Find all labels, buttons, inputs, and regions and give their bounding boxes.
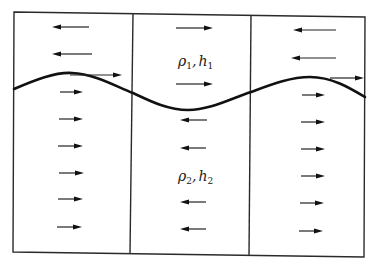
right-arrow-icon [59, 116, 83, 121]
h-symbol: h [198, 53, 207, 69]
right-arrow-icon [302, 92, 325, 97]
lower-layer-label: ρ2,h2 [177, 168, 213, 186]
right-arrow-icon [176, 25, 213, 30]
left-arrow-icon [293, 27, 336, 32]
right-arrow-icon [59, 170, 84, 175]
channel-divider-2 [249, 15, 251, 255]
channel-dividers [130, 13, 251, 255]
frame-border [13, 12, 365, 257]
h-subscript: 1 [207, 61, 213, 71]
right-arrow-icon [58, 196, 83, 201]
h-symbol: h [198, 168, 207, 184]
stratified-flow-diagram: ρ1,h1 ρ2,h2 [0, 0, 378, 268]
left-arrow-icon [52, 51, 92, 56]
right-arrow-icon [58, 143, 83, 148]
channel-divider-1 [130, 13, 133, 253]
left-arrow-icon [52, 24, 89, 29]
right-arrow-icon [299, 228, 323, 233]
left-arrow-icon [180, 199, 206, 204]
right-arrow-icon [57, 224, 82, 229]
right-arrow-icon [301, 173, 325, 178]
label-separator: , [192, 168, 196, 184]
left-arrow-icon [180, 226, 206, 231]
right-arrow-icon [176, 81, 213, 86]
right-arrow-icon [330, 75, 364, 80]
left-arrow-icon [180, 145, 206, 150]
right-arrow-icon [60, 89, 83, 94]
label-separator: , [192, 53, 196, 69]
h-subscript: 2 [207, 176, 213, 186]
right-arrow-icon [301, 119, 325, 124]
velocity-arrows [52, 24, 364, 233]
upper-layer-label: ρ1,h1 [177, 53, 213, 71]
diagram-canvas: ρ1,h1 ρ2,h2 [0, 0, 378, 268]
channel-frame [13, 12, 365, 257]
left-arrow-icon [291, 55, 336, 60]
left-arrow-icon [180, 117, 207, 122]
right-arrow-icon [300, 200, 324, 205]
right-arrow-icon [301, 146, 325, 151]
